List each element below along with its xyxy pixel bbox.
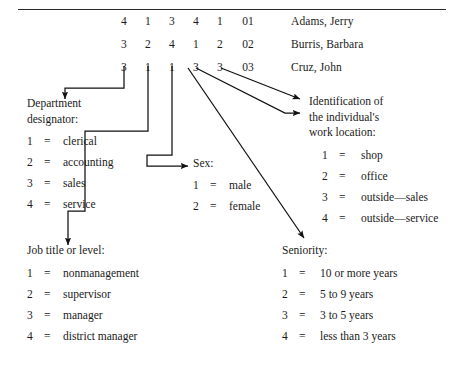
legend-entry: 1 = shop (322, 150, 383, 171)
leader-sex (147, 66, 188, 166)
legend-entry: 2 = female (193, 201, 213, 222)
legend-entry: 4 = district manager (27, 331, 105, 352)
legend-heading: Sex: (193, 158, 213, 170)
table-row: 3 2 4 1 2 02 Burris, Barbara (0, 38, 464, 57)
cell-department: 3 (116, 61, 132, 73)
legend-heading: Identification of the individual's work … (309, 96, 383, 139)
cell-department: 4 (116, 15, 132, 27)
cell-job-title: 1 (140, 15, 156, 27)
cell-id: 01 (237, 15, 259, 27)
cell-sex: 4 (164, 38, 180, 50)
legend-entry: 4 = less than 3 years (282, 331, 327, 352)
cell-work-location: 3 (188, 61, 204, 73)
cell-work-location: 4 (188, 15, 204, 27)
cell-name: Burris, Barbara (291, 38, 363, 50)
legend-sex: Sex: 1 = male 2 = female (193, 158, 213, 222)
table-row: 3 1 1 3 3 03 Cruz, John (0, 61, 464, 80)
cell-seniority: 1 (212, 15, 228, 27)
legend-entry: 4 = service (27, 199, 81, 220)
table-row: 4 1 3 4 1 01 Adams, Jerry (0, 15, 464, 34)
legend-entry: 1 = male (193, 180, 213, 201)
legend-entry: 2 = 5 to 9 years (282, 289, 327, 310)
coded-record-figure: 4 1 3 4 1 01 Adams, Jerry 3 2 4 1 2 02 B… (0, 0, 464, 365)
cell-seniority: 3 (212, 61, 228, 73)
cell-sex: 3 (164, 15, 180, 27)
cell-name: Cruz, John (291, 61, 342, 73)
legend-entry: 1 = clerical (27, 136, 81, 157)
cell-name: Adams, Jerry (291, 15, 354, 27)
cell-job-title: 1 (140, 61, 156, 73)
legend-job-title: Job title or level: 1 = nonmanagement 2 … (27, 245, 105, 352)
legend-heading: Job title or level: (27, 245, 105, 257)
cell-id: 03 (237, 61, 259, 73)
legend-entry: 2 = office (322, 171, 383, 192)
legend-entry: 3 = sales (27, 178, 81, 199)
legend-entry: 2 = supervisor (27, 289, 105, 310)
legend-entry: 1 = 10 or more years (282, 268, 327, 289)
legend-entry: 3 = 3 to 5 years (282, 310, 327, 331)
cell-department: 3 (116, 38, 132, 50)
legend-heading: Department designator: (27, 98, 81, 125)
legend-seniority: Seniority: 1 = 10 or more years 2 = 5 to… (282, 245, 327, 352)
cell-seniority: 2 (212, 38, 228, 50)
legend-entry: 3 = outside—sales (322, 192, 383, 213)
cell-sex: 1 (164, 61, 180, 73)
legend-entry: 3 = manager (27, 310, 105, 331)
cell-job-title: 2 (140, 38, 156, 50)
legend-entry: 2 = accounting (27, 157, 81, 178)
legend-heading: Seniority: (282, 245, 327, 257)
legend-entry: 1 = nonmanagement (27, 268, 105, 289)
cell-work-location: 1 (188, 38, 204, 50)
cell-id: 02 (237, 38, 259, 50)
legend-work-location: Identification of the individual's work … (309, 96, 383, 234)
legend-entry: 4 = outside—service (322, 213, 383, 234)
legend-department-designator: Department designator: 1 = clerical 2 = … (27, 98, 81, 220)
